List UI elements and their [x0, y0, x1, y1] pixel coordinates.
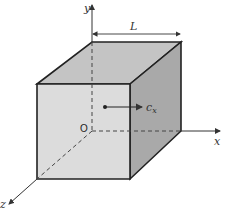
velocity-subscript: x — [152, 106, 157, 115]
length-label: L — [129, 20, 137, 33]
y-axis-label: y — [83, 2, 91, 15]
x-axis-label: x — [214, 135, 221, 148]
origin-label: O — [80, 123, 88, 134]
z-axis-label: z — [0, 198, 6, 211]
cube-illustration: y x z L O cx — [0, 0, 227, 214]
z-axis — [9, 179, 37, 204]
cube-diagram: y x z L O cx — [0, 0, 227, 214]
